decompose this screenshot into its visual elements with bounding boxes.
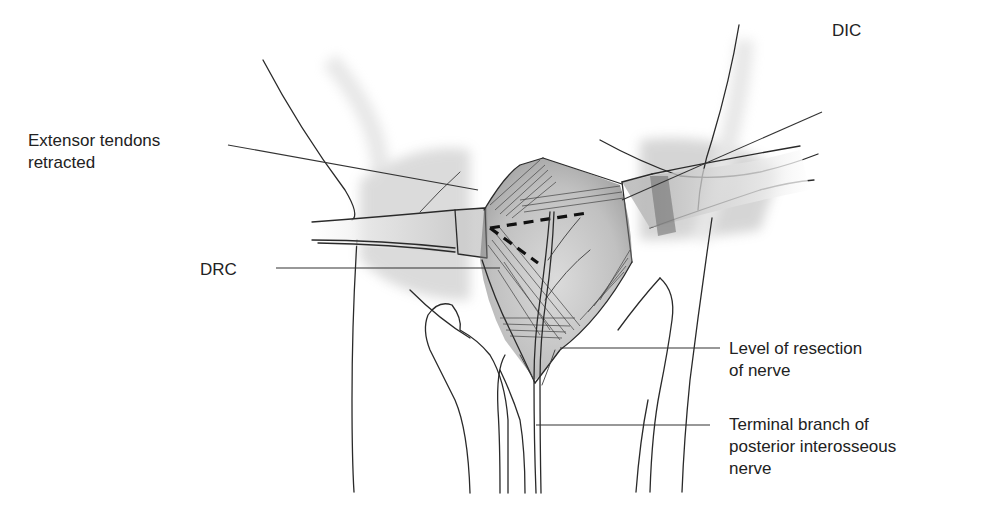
label-extensor-tendons: Extensor tendons retracted (28, 130, 160, 174)
label-terminal-branch: Terminal branch of posterior interosseou… (729, 414, 896, 480)
label-drc: DRC (200, 259, 237, 281)
label-dic: DIC (832, 20, 861, 42)
dissection-field (480, 158, 632, 493)
label-resection-level: Level of resection of nerve (729, 338, 862, 382)
